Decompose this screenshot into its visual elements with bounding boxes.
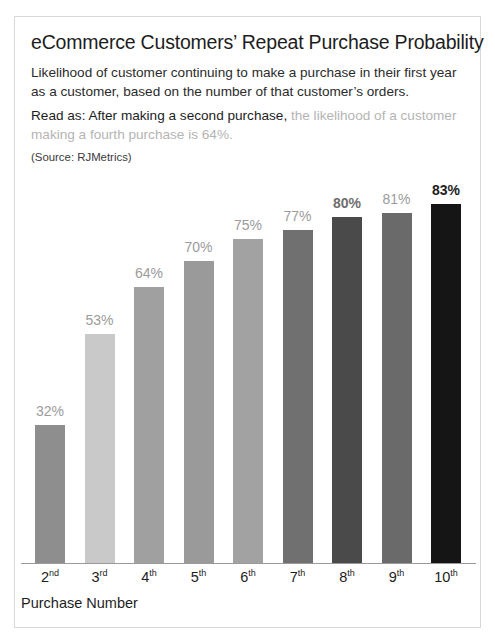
bar-group: 53% bbox=[85, 334, 115, 563]
x-axis-tick-label: 6th bbox=[240, 569, 256, 585]
x-axis-tick-label: 7th bbox=[290, 569, 306, 585]
bar[interactable] bbox=[134, 287, 164, 563]
bar-group: 75% bbox=[233, 239, 263, 563]
x-axis-tick-label: 9th bbox=[389, 569, 405, 585]
bar-value-label: 70% bbox=[184, 239, 212, 255]
bar-value-label: 80% bbox=[333, 195, 361, 211]
x-axis-tick-label: 8th bbox=[339, 569, 355, 585]
x-axis-tick-label: 4th bbox=[141, 569, 157, 585]
bar-group: 83% bbox=[431, 204, 461, 563]
chart-card: eCommerce Customers’ Repeat Purchase Pro… bbox=[14, 16, 481, 628]
bar-value-label: 83% bbox=[432, 182, 460, 198]
bar-group: 81% bbox=[382, 213, 412, 563]
bar[interactable] bbox=[35, 425, 65, 563]
x-axis-tick-label: 3rd bbox=[91, 569, 107, 585]
bar-chart-plot: 32%53%64%70%75%77%80%81%83% 2nd3rd4th5th… bbox=[15, 17, 480, 627]
bar[interactable] bbox=[431, 204, 461, 563]
bar[interactable] bbox=[332, 217, 362, 563]
bar-value-label: 77% bbox=[283, 208, 311, 224]
bar[interactable] bbox=[283, 230, 313, 563]
bar[interactable] bbox=[85, 334, 115, 563]
bar-group: 64% bbox=[134, 287, 164, 563]
x-axis-title: Purchase Number bbox=[21, 595, 138, 611]
bar-group: 77% bbox=[283, 230, 313, 563]
bar[interactable] bbox=[184, 261, 214, 563]
bar[interactable] bbox=[233, 239, 263, 563]
bar-value-label: 75% bbox=[234, 217, 262, 233]
bar-value-label: 81% bbox=[382, 191, 410, 207]
bar[interactable] bbox=[382, 213, 412, 563]
bar-value-label: 64% bbox=[135, 265, 163, 281]
bar-group: 80% bbox=[332, 217, 362, 563]
bar-group: 32% bbox=[35, 425, 65, 563]
bar-value-label: 53% bbox=[85, 312, 113, 328]
x-axis-tick-label: 10th bbox=[434, 569, 458, 585]
x-axis-tick-label: 2nd bbox=[41, 569, 59, 585]
x-axis-line bbox=[21, 563, 476, 564]
x-axis-tick-label: 5th bbox=[191, 569, 207, 585]
bar-value-label: 32% bbox=[36, 403, 64, 419]
bar-group: 70% bbox=[184, 261, 214, 563]
